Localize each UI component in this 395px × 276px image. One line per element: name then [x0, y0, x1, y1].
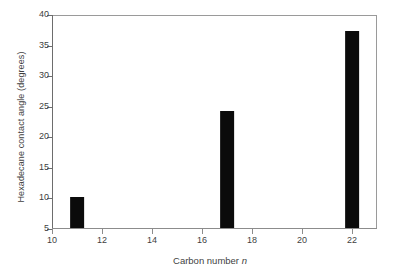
y-axis-title: Hexadecane contact angle (degrees)	[14, 7, 28, 247]
x-tick-mark	[302, 229, 303, 234]
x-tick-label: 14	[147, 235, 157, 245]
x-axis-title: Carbon number n	[40, 255, 380, 266]
x-tick-label: 18	[247, 235, 257, 245]
plot-frame-right	[376, 15, 377, 229]
y-tick-label: 25	[39, 101, 49, 111]
y-tick-label: 10	[39, 192, 49, 202]
plot-frame-top	[52, 15, 377, 16]
x-tick-label: 10	[47, 235, 57, 245]
bar	[70, 197, 84, 228]
y-tick-label: 20	[39, 131, 49, 141]
plot-area: 510152025303540 10121416182022	[52, 15, 377, 229]
y-axis-line	[52, 15, 53, 229]
x-axis-title-text: Carbon number	[173, 255, 242, 266]
x-tick-label: 16	[197, 235, 207, 245]
x-tick-label: 20	[297, 235, 307, 245]
x-tick-label: 12	[97, 235, 107, 245]
x-tick-mark	[102, 229, 103, 234]
x-axis-line	[52, 228, 377, 229]
x-tick-label: 22	[347, 235, 357, 245]
x-tick-mark	[152, 229, 153, 234]
x-axis-title-variable: n	[242, 255, 247, 266]
chart-figure: Hexadecane contact angle (degrees) Carbo…	[0, 0, 395, 276]
y-tick-label: 5	[44, 223, 49, 233]
x-tick-mark	[352, 229, 353, 234]
y-tick-label: 40	[39, 9, 49, 19]
y-tick-label: 35	[39, 40, 49, 50]
bar	[345, 31, 359, 228]
y-tick-label: 30	[39, 70, 49, 80]
x-tick-mark	[252, 229, 253, 234]
x-tick-mark	[202, 229, 203, 234]
bar	[220, 111, 234, 228]
x-tick-mark	[52, 229, 53, 234]
y-tick-label: 15	[39, 162, 49, 172]
